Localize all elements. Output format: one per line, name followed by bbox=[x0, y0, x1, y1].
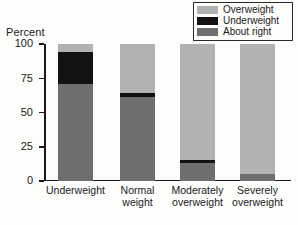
y-axis-tick-label: 50 bbox=[21, 106, 33, 118]
bar-stack bbox=[120, 44, 155, 181]
bar-segment bbox=[180, 44, 215, 160]
y-axis-tick-label: 100 bbox=[15, 37, 33, 49]
bars-layer bbox=[44, 44, 291, 181]
bar-segment bbox=[58, 44, 93, 52]
legend-item: About right bbox=[197, 27, 289, 37]
bar-segment bbox=[240, 44, 275, 174]
legend-label: About right bbox=[223, 27, 271, 37]
bar-segment bbox=[58, 84, 93, 181]
legend-swatch bbox=[197, 6, 218, 14]
y-axis-tick-label: 75 bbox=[21, 72, 33, 84]
bar-segment bbox=[120, 97, 155, 181]
x-axis-category-label: Severely overweight bbox=[218, 185, 298, 208]
legend-item: Overweight bbox=[197, 5, 289, 15]
legend-label: Overweight bbox=[223, 5, 274, 15]
stacked-bar-chart: Percent 1007550250 UnderweightNormal wei… bbox=[0, 0, 297, 225]
legend-swatch bbox=[197, 17, 218, 25]
legend-item: Underweight bbox=[197, 16, 289, 26]
plot-area: 1007550250 bbox=[44, 44, 291, 181]
bar-segment bbox=[120, 44, 155, 93]
bar-segment bbox=[240, 174, 275, 181]
bar-segment bbox=[180, 163, 215, 181]
bar-stack bbox=[58, 44, 93, 181]
bar-stack bbox=[240, 44, 275, 181]
legend-swatch bbox=[197, 28, 218, 36]
chart-legend: OverweightUnderweightAbout right bbox=[193, 2, 293, 41]
bar-stack bbox=[180, 44, 215, 181]
legend-label: Underweight bbox=[223, 16, 279, 26]
bar-segment bbox=[58, 52, 93, 84]
y-axis-tick-label: 0 bbox=[27, 174, 33, 186]
y-axis-tick-label: 25 bbox=[21, 140, 33, 152]
y-axis-title: Percent bbox=[6, 26, 45, 38]
